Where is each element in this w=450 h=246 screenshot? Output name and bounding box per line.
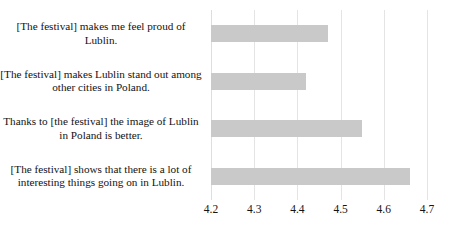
bar [211, 168, 410, 185]
x-tick-label: 4.7 [420, 202, 434, 216]
bar [211, 73, 306, 90]
x-tick-label: 4.6 [377, 202, 391, 216]
x-tick-label: 4.3 [247, 202, 261, 216]
x-tick-label: 4.4 [290, 202, 304, 216]
gridline-4.7 [427, 10, 428, 200]
x-tick-label: 4.5 [333, 202, 347, 216]
category-label: Thanks to [the festival] the image of Lu… [0, 115, 205, 142]
bar [211, 25, 328, 42]
category-label-column: [The festival] makes me feel proud of Lu… [0, 10, 208, 200]
category-label: [The festival] makes Lublin stand out am… [0, 68, 205, 95]
plot-area [211, 10, 427, 200]
bar [211, 120, 362, 137]
x-tick-label: 4.2 [204, 202, 218, 216]
x-axis-tick-labels: 4.24.34.44.54.64.7 [211, 202, 427, 222]
bar-chart: [The festival] makes me feel proud of Lu… [0, 0, 450, 246]
category-label: [The festival] shows that there is a lot… [0, 163, 205, 190]
category-label: [The festival] makes me feel proud of Lu… [0, 20, 205, 47]
